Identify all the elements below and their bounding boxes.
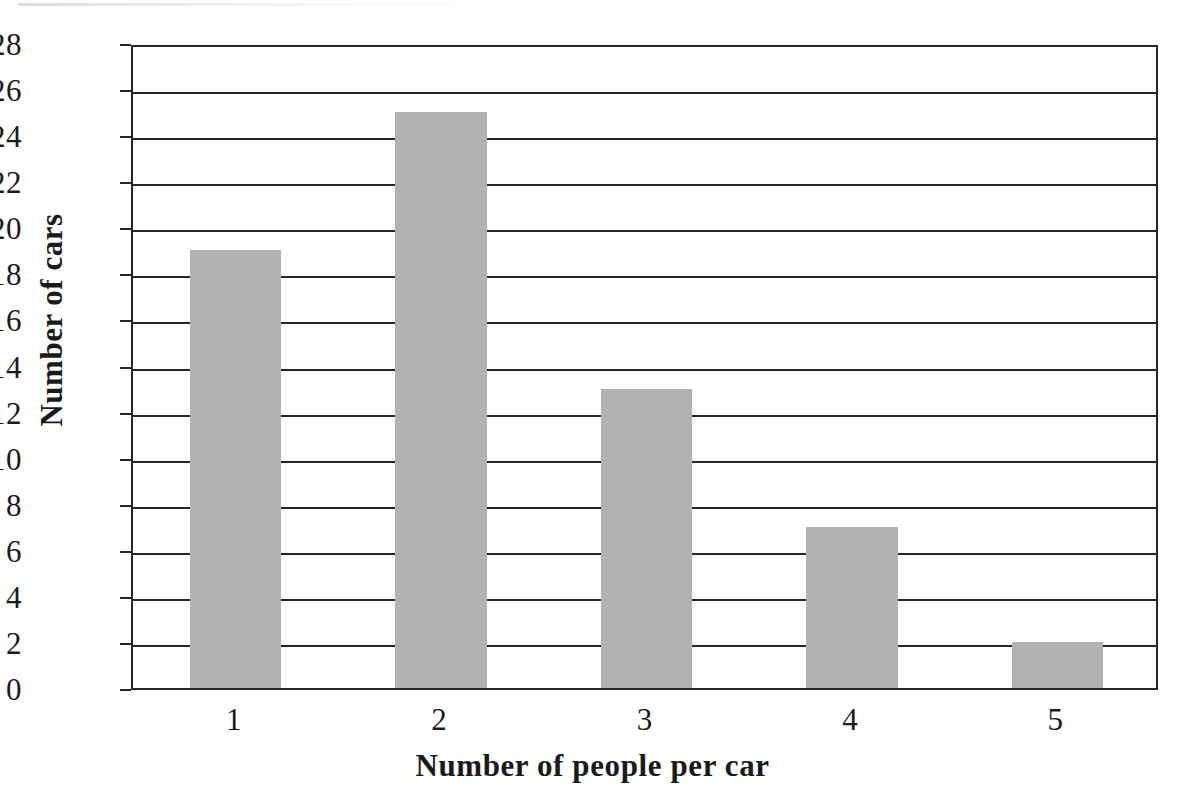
y-tick-mark	[120, 182, 131, 184]
y-tick-mark	[120, 643, 131, 645]
y-tick-label: 2	[0, 628, 22, 659]
y-tick-mark	[120, 274, 131, 276]
plot-area	[131, 45, 1158, 690]
y-tick-label: 4	[0, 582, 22, 613]
scan-artifact	[18, 3, 518, 6]
y-tick-label: 10	[0, 444, 22, 475]
x-tick-label: 2	[379, 703, 499, 737]
bar	[601, 389, 692, 688]
x-tick-label: 5	[995, 703, 1115, 737]
y-tick-label: 12	[0, 398, 22, 429]
y-tick-label: 22	[0, 167, 22, 198]
x-axis-title: Number of people per car	[0, 748, 1185, 784]
y-tick-mark	[120, 597, 131, 599]
y-tick-mark	[120, 505, 131, 507]
bar	[190, 250, 281, 688]
y-tick-mark	[120, 551, 131, 553]
y-tick-label: 6	[0, 536, 22, 567]
gridline	[133, 230, 1156, 232]
y-tick-mark	[120, 90, 131, 92]
y-tick-mark	[120, 689, 131, 691]
gridline	[133, 138, 1156, 140]
y-tick-label: 26	[0, 75, 22, 106]
y-tick-mark	[120, 320, 131, 322]
y-tick-mark	[120, 136, 131, 138]
x-tick-label: 1	[174, 703, 294, 737]
y-tick-label: 20	[0, 213, 22, 244]
bar	[1012, 642, 1103, 688]
y-tick-mark	[120, 44, 131, 46]
y-tick-mark	[120, 228, 131, 230]
gridline	[133, 369, 1156, 371]
y-tick-mark	[120, 413, 131, 415]
y-tick-label: 16	[0, 305, 22, 336]
y-tick-label: 28	[0, 29, 22, 60]
y-tick-label: 24	[0, 121, 22, 152]
y-axis-title: Number of cars	[34, 170, 70, 470]
y-tick-mark	[120, 367, 131, 369]
bar	[395, 112, 486, 688]
y-tick-label: 18	[0, 259, 22, 290]
bar	[806, 527, 897, 688]
gridline	[133, 322, 1156, 324]
y-tick-label: 0	[0, 674, 22, 705]
x-tick-label: 3	[585, 703, 705, 737]
y-tick-label: 14	[0, 352, 22, 383]
y-tick-mark	[120, 459, 131, 461]
x-tick-label: 4	[790, 703, 910, 737]
y-tick-label: 8	[0, 490, 22, 521]
bar-chart: Number of cars 0246810121416182022242628…	[0, 0, 1185, 794]
gridline	[133, 184, 1156, 186]
gridline	[133, 92, 1156, 94]
gridline	[133, 276, 1156, 278]
